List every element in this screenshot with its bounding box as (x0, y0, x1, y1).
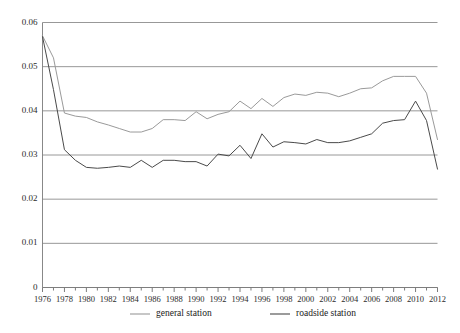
x-tick-label: 1978 (56, 294, 73, 304)
y-gridlines (43, 23, 438, 288)
y-tick-label: 0.04 (22, 105, 38, 115)
chart-legend: general stationroadside station (130, 308, 356, 318)
x-tick-label: 1992 (210, 294, 227, 304)
x-tick-label: 1994 (232, 294, 250, 304)
x-tick-label: 1986 (144, 294, 161, 304)
y-axis-tick-labels: 00.010.020.030.040.050.06 (22, 17, 38, 292)
x-tick-label: 1996 (253, 294, 270, 304)
x-tick-label: 2006 (363, 294, 380, 304)
y-tick-label: 0 (33, 282, 38, 292)
x-tick-label: 1980 (78, 294, 95, 304)
chart-canvas: 00.010.020.030.040.050.06 19761978198019… (0, 0, 460, 333)
x-tick-label: 2012 (429, 294, 446, 304)
y-tick-label: 0.02 (22, 193, 38, 203)
x-tick-label: 1998 (275, 294, 292, 304)
y-tick-label: 0.01 (22, 237, 38, 247)
series-line-roadside-station (43, 37, 438, 170)
y-tick-label: 0.06 (22, 17, 38, 27)
legend-label-0: general station (156, 308, 212, 318)
x-tick-label: 1988 (166, 294, 183, 304)
x-tick-label: 2004 (341, 294, 359, 304)
x-tick-label: 2010 (407, 294, 424, 304)
x-tick-label: 1984 (122, 294, 140, 304)
line-chart: 00.010.020.030.040.050.06 19761978198019… (0, 0, 460, 333)
data-series-group (43, 36, 438, 169)
x-tick-label: 2008 (385, 294, 402, 304)
x-axis-tick-labels: 1976197819801982198419861988199019921994… (34, 294, 446, 304)
y-tick-label: 0.03 (22, 149, 38, 159)
y-tick-label: 0.05 (22, 61, 38, 71)
x-tick-label: 2002 (319, 294, 336, 304)
x-tick-label: 1982 (100, 294, 117, 304)
series-line-general-station (43, 36, 438, 140)
x-axis-tickmarks (43, 288, 438, 293)
x-tick-label: 1976 (34, 294, 51, 304)
x-tick-label: 1990 (188, 294, 205, 304)
legend-label-1: roadside station (296, 308, 356, 318)
x-tick-label: 2000 (297, 294, 314, 304)
